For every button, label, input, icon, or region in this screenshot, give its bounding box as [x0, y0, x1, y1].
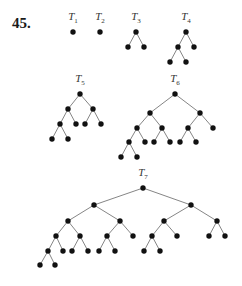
- tree-node: [140, 185, 145, 190]
- tree-node: [77, 91, 82, 96]
- tree-node: [130, 233, 135, 238]
- tree-node: [159, 125, 164, 130]
- tree-node: [82, 121, 87, 126]
- tree-node: [147, 110, 152, 115]
- tree-t5: [49, 91, 103, 141]
- tree-node: [133, 29, 138, 34]
- tree-node: [104, 233, 109, 238]
- tree-edge: [188, 113, 200, 128]
- tree-node: [161, 218, 166, 223]
- tree-node: [149, 233, 154, 238]
- tree-edge: [94, 188, 143, 205]
- tree-edge: [191, 205, 217, 221]
- tree-node: [210, 125, 215, 130]
- tree-node: [185, 125, 190, 130]
- tree-node: [126, 139, 131, 144]
- tree-node: [134, 154, 139, 159]
- tree-node: [175, 44, 180, 49]
- tree-node: [65, 106, 70, 111]
- tree-label-t4: T4: [181, 10, 191, 25]
- tree-t4: [167, 29, 196, 64]
- tree-node: [60, 248, 65, 253]
- tree-edge: [120, 221, 133, 236]
- tree-node: [177, 139, 182, 144]
- tree-node: [69, 248, 74, 253]
- tree-node: [49, 136, 54, 141]
- tree-node: [53, 233, 58, 238]
- tree-node: [112, 248, 117, 253]
- tree-t3: [125, 29, 146, 49]
- tree-t2: [97, 29, 102, 34]
- tree-node: [96, 248, 101, 253]
- tree-edge: [68, 221, 80, 236]
- tree-edge: [164, 205, 191, 221]
- tree-node: [183, 29, 188, 34]
- tree-node: [52, 262, 57, 267]
- tree-node: [183, 59, 188, 64]
- tree-node: [193, 139, 198, 144]
- tree-node: [214, 218, 219, 223]
- tree-node: [57, 121, 62, 126]
- tree-edge: [68, 205, 94, 221]
- tree-label-t3: T3: [131, 10, 141, 25]
- tree-node: [188, 202, 193, 207]
- tree-node: [206, 233, 211, 238]
- tree-node: [141, 248, 146, 253]
- tree-t7: [37, 185, 227, 267]
- tree-node: [118, 154, 123, 159]
- tree-label-t7: T7: [138, 166, 148, 181]
- tree-node: [90, 106, 95, 111]
- tree-node: [70, 29, 75, 34]
- tree-node: [157, 248, 162, 253]
- tree-label-t2: T2: [95, 10, 105, 25]
- tree-node: [125, 44, 130, 49]
- tree-edge: [56, 221, 68, 236]
- tree-edge: [143, 188, 191, 205]
- tree-node: [141, 44, 146, 49]
- tree-node: [37, 262, 42, 267]
- tree-t1: [70, 29, 75, 34]
- tree-node: [98, 121, 103, 126]
- tree-edge: [94, 205, 120, 221]
- tree-node: [172, 91, 177, 96]
- tree-edge: [152, 221, 164, 236]
- tree-t6: [118, 91, 215, 159]
- tree-node: [65, 218, 70, 223]
- tree-node: [77, 233, 82, 238]
- tree-node: [142, 139, 147, 144]
- tree-node: [167, 59, 172, 64]
- tree-node: [197, 110, 202, 115]
- tree-node: [85, 248, 90, 253]
- tree-edge: [150, 113, 162, 128]
- tree-node: [191, 44, 196, 49]
- tree-node: [65, 136, 70, 141]
- tree-label-t6: T6: [170, 72, 180, 87]
- tree-edge: [200, 113, 213, 128]
- tree-node: [91, 202, 96, 207]
- tree-edge: [107, 221, 120, 236]
- tree-node: [167, 139, 172, 144]
- tree-node: [45, 248, 50, 253]
- tree-edge: [150, 94, 175, 113]
- tree-node: [73, 121, 78, 126]
- tree-node: [134, 125, 139, 130]
- tree-node: [174, 233, 179, 238]
- tree-node: [97, 29, 102, 34]
- tree-edge: [164, 221, 177, 236]
- fibonacci-trees-diagram: [0, 0, 242, 286]
- tree-edge: [175, 94, 200, 113]
- tree-edge: [80, 94, 93, 109]
- tree-node: [151, 139, 156, 144]
- tree-edge: [137, 113, 150, 128]
- tree-edge: [68, 94, 80, 109]
- tree-node: [117, 218, 122, 223]
- tree-node: [222, 233, 227, 238]
- tree-label-t5: T5: [75, 72, 85, 87]
- tree-label-t1: T1: [68, 10, 78, 25]
